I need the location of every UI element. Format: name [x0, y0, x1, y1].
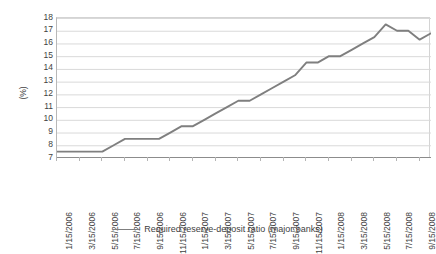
y-axis-title-label: (%) [18, 86, 28, 99]
x-axis-tick-mark [328, 157, 329, 161]
plot-area [56, 17, 430, 157]
x-axis-tick-mark [147, 157, 148, 161]
legend-entry-label: Required reserve-deposit ratio (major ba… [144, 224, 323, 234]
chart-legend: Required reserve-deposit ratio (major ba… [0, 219, 436, 239]
y-axis-tick-label: 16 [44, 38, 53, 47]
x-axis-tick-mark [351, 157, 352, 161]
y-axis-tick-label: 17 [44, 25, 53, 34]
x-axis-tick-mark [373, 157, 374, 161]
x-axis-tick-mark [283, 157, 284, 161]
y-axis-tick-label: 15 [44, 51, 53, 60]
x-axis-tick-labels: 1/15/20063/15/20065/15/20067/15/20069/15… [56, 162, 431, 214]
x-axis-tick-mark [56, 157, 57, 161]
x-axis-tick-mark [260, 157, 261, 161]
y-axis-tick-labels: 181716151413121110987 [29, 12, 53, 162]
y-axis-tick-label: 9 [48, 127, 53, 136]
x-axis-tick-mark [215, 157, 216, 161]
x-axis-tick-mark [237, 157, 238, 161]
y-axis-tick-label: 7 [48, 153, 53, 162]
data-series-group [57, 18, 431, 158]
y-axis-tick-label: 18 [44, 13, 53, 22]
y-axis-tick-label: 10 [44, 114, 53, 123]
x-axis-tick-mark [101, 157, 102, 161]
x-axis-tick-mark [396, 157, 397, 161]
y-axis-tick-label: 13 [44, 76, 53, 85]
y-axis-tick-label: 8 [48, 140, 53, 149]
x-axis-tick-mark [192, 157, 193, 161]
y-axis-tick-label: 12 [44, 89, 53, 98]
y-axis-tick-label: 11 [44, 102, 53, 111]
y-axis-tick-label: 14 [44, 63, 53, 72]
x-axis-tick-mark [419, 157, 420, 161]
x-axis-tick-mark [124, 157, 125, 161]
x-axis-tick-mark [305, 157, 306, 161]
legend-line-swatch-icon [113, 229, 139, 230]
x-axis-tick-mark [169, 157, 170, 161]
x-axis-tick-mark [79, 157, 80, 161]
